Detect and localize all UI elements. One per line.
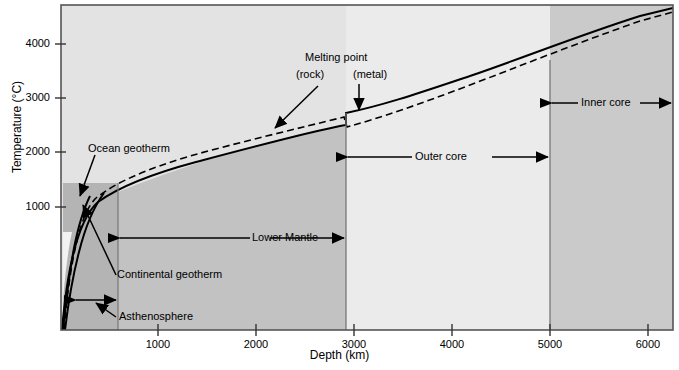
temperature-depth-figure: Temperature (°C) Depth (km) 4000 3000 20…	[0, 0, 679, 370]
x-tick-3000: 3000	[324, 338, 384, 350]
asthenosphere-label: Asthenosphere	[119, 310, 193, 322]
y-tick-1000: 1000	[4, 200, 50, 212]
x-tick-1000: 1000	[128, 338, 188, 350]
x-tick-2000: 2000	[226, 338, 286, 350]
outer-core-label: Outer core	[415, 150, 467, 162]
asthenosphere-band	[63, 183, 118, 330]
x-axis-title: Depth (km)	[0, 348, 679, 362]
continental-geotherm-label: Continental geotherm	[117, 268, 222, 280]
lower-mantle-label: Lower Mantle	[252, 231, 318, 243]
ocean-geotherm-label: Ocean geotherm	[88, 142, 170, 154]
y-tick-4000: 4000	[4, 37, 50, 49]
melting-point-label: Melting point	[305, 51, 367, 63]
melting-point-rock-label: (rock)	[296, 68, 324, 80]
outer-core-band	[346, 5, 550, 330]
x-tick-4000: 4000	[422, 338, 482, 350]
melting-point-metal-label: (metal)	[353, 68, 387, 80]
x-tick-6000: 6000	[618, 338, 678, 350]
y-tick-3000: 3000	[4, 91, 50, 103]
y-tick-2000: 2000	[4, 145, 50, 157]
inner-core-band	[550, 5, 673, 330]
x-tick-5000: 5000	[520, 338, 580, 350]
inner-core-label: Inner core	[581, 96, 631, 108]
